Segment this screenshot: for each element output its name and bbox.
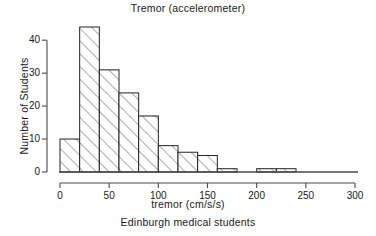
y-tick-label: 10 [14,133,40,144]
y-tick-label: 30 [14,67,40,78]
histogram-bar [99,70,119,172]
histogram-bar [119,93,139,172]
histogram-bar [60,139,80,172]
histogram-bar [139,116,159,172]
bars-group [60,27,296,172]
histogram-bar [158,146,178,172]
histogram-bar [178,152,198,172]
histogram-bar [80,27,100,172]
y-tick-label: 0 [14,166,40,177]
histogram-bar [198,156,218,172]
chart-caption: Edinburgh medical students [0,216,376,228]
y-tick-label: 20 [14,100,40,111]
histogram-figure: Tremor (accelerometer) Number of Student… [0,0,376,236]
y-tick-label: 40 [14,34,40,45]
x-axis-label: tremor (cm/s/s) [0,198,376,210]
